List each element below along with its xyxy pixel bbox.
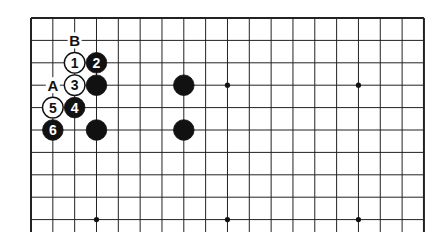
black-stone-2: 2 xyxy=(86,53,107,74)
black-stone-6: 6 xyxy=(43,120,64,141)
move-number: 5 xyxy=(49,100,57,116)
star-point xyxy=(225,217,230,222)
star-point xyxy=(356,83,361,88)
black-stone xyxy=(174,120,195,141)
move-number: 6 xyxy=(49,122,57,138)
white-stone-1: 1 xyxy=(64,53,85,74)
move-number: 2 xyxy=(93,55,101,71)
white-stone-3: 3 xyxy=(64,75,85,96)
black-stone xyxy=(174,75,195,96)
move-number: 3 xyxy=(71,77,79,93)
black-stone xyxy=(86,75,107,96)
letter-mark-b: B xyxy=(69,32,80,49)
star-point xyxy=(94,217,99,222)
go-board: BA 123456 xyxy=(0,0,445,238)
black-stone xyxy=(86,120,107,141)
black-stone-4: 4 xyxy=(64,97,85,118)
letter-mark-a: A xyxy=(47,77,58,94)
white-stone-5: 5 xyxy=(43,97,64,118)
move-number: 4 xyxy=(71,100,79,116)
move-number: 1 xyxy=(71,55,79,71)
star-point xyxy=(225,83,230,88)
star-point xyxy=(356,217,361,222)
